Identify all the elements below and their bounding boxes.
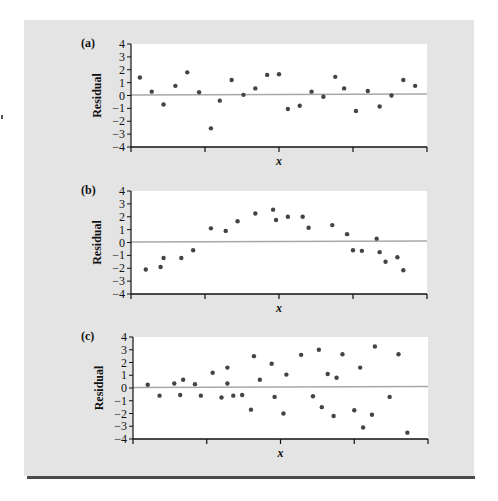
data-point	[281, 411, 285, 415]
data-point	[405, 430, 409, 434]
data-point	[218, 98, 222, 102]
data-point	[209, 126, 213, 130]
data-point	[225, 381, 229, 385]
data-point	[320, 405, 324, 409]
data-point	[219, 395, 223, 399]
x-axis-title: x	[275, 301, 282, 315]
y-axis-title: Residual	[92, 365, 106, 410]
panel-c: 43210−1−2−3−4(c)Residualx	[81, 329, 428, 460]
data-point	[178, 393, 182, 397]
data-point	[300, 215, 304, 219]
data-point	[274, 218, 278, 222]
x-axis-title: x	[277, 446, 284, 460]
data-point	[161, 256, 165, 260]
data-point	[333, 75, 337, 79]
data-point	[144, 267, 148, 271]
data-point	[352, 408, 356, 412]
zero-reference-line	[133, 387, 428, 388]
y-tick-label: −4	[114, 432, 127, 446]
data-point	[309, 89, 313, 93]
data-point	[370, 413, 374, 417]
data-point	[298, 104, 302, 108]
data-point	[252, 354, 256, 358]
data-point	[354, 109, 358, 113]
data-point	[272, 395, 276, 399]
data-point	[377, 104, 381, 108]
data-point	[401, 268, 405, 272]
data-point	[374, 236, 378, 240]
data-point	[321, 95, 325, 99]
data-point	[265, 73, 269, 77]
data-point	[241, 93, 245, 97]
data-point	[138, 75, 142, 79]
data-point	[389, 93, 393, 97]
data-point	[413, 84, 417, 88]
data-point	[157, 393, 161, 397]
data-point	[377, 250, 381, 254]
data-point	[197, 90, 201, 94]
data-point	[253, 211, 257, 215]
data-point	[395, 255, 399, 259]
data-point	[225, 365, 229, 369]
data-point	[345, 232, 349, 236]
data-point	[396, 352, 400, 356]
panel-label: (a)	[81, 36, 95, 50]
data-point	[286, 215, 290, 219]
data-point	[286, 107, 290, 111]
data-point	[326, 372, 330, 376]
data-point	[173, 84, 177, 88]
data-point	[334, 376, 338, 380]
data-point	[340, 352, 344, 356]
data-point	[366, 89, 370, 93]
data-point	[387, 395, 391, 399]
data-point	[199, 393, 203, 397]
data-point	[299, 353, 303, 357]
data-point	[150, 89, 154, 93]
data-point	[271, 207, 275, 211]
residual-plots: 43210−1−2−3−4(a)Residualx 43210−1−2−3−4(…	[0, 0, 498, 501]
data-point	[209, 226, 213, 230]
data-point	[193, 382, 197, 386]
data-point	[342, 86, 346, 90]
panel-b: 43210−1−2−3−4(b)Residualx	[81, 183, 427, 315]
data-point	[306, 225, 310, 229]
data-point	[231, 393, 235, 397]
data-point	[253, 86, 257, 90]
data-point	[317, 348, 321, 352]
data-point	[358, 365, 362, 369]
data-point	[361, 425, 365, 429]
data-point	[235, 219, 239, 223]
y-tick-label: −4	[112, 140, 125, 154]
y-tick-label: −4	[112, 287, 125, 301]
data-point	[351, 248, 355, 252]
panel-label: (b)	[81, 183, 96, 197]
data-point	[258, 378, 262, 382]
x-axis-title: x	[275, 154, 282, 168]
data-point	[161, 102, 165, 106]
data-point	[284, 372, 288, 376]
data-point	[179, 256, 183, 260]
data-point	[249, 407, 253, 411]
data-point	[146, 383, 150, 387]
data-point	[360, 249, 364, 253]
data-point	[240, 393, 244, 397]
panel-a: 43210−1−2−3−4(a)Residualx	[81, 36, 427, 168]
data-point	[229, 78, 233, 82]
zero-reference-line	[131, 94, 427, 95]
data-point	[172, 381, 176, 385]
zero-reference-line	[131, 241, 427, 242]
data-point	[330, 223, 334, 227]
data-point	[383, 260, 387, 264]
data-point	[158, 265, 162, 269]
y-axis-title: Residual	[90, 220, 104, 265]
data-point	[311, 394, 315, 398]
data-point	[373, 344, 377, 348]
data-point	[210, 371, 214, 375]
data-point	[181, 378, 185, 382]
data-point	[401, 78, 405, 82]
data-point	[331, 414, 335, 418]
data-point	[277, 72, 281, 76]
data-point	[191, 248, 195, 252]
data-point	[224, 229, 228, 233]
data-point	[269, 362, 273, 366]
